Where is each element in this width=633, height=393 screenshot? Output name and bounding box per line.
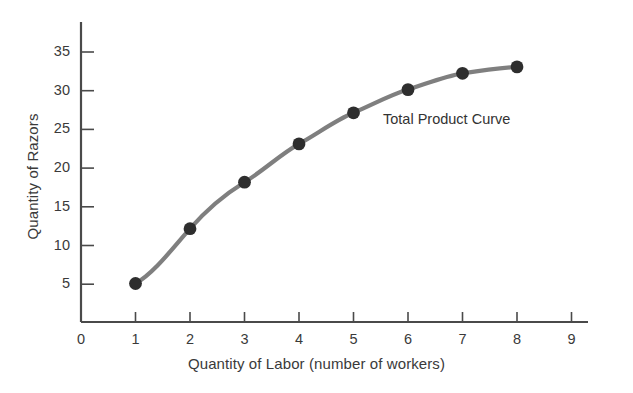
x-tick-label-5: 5 [339, 331, 369, 347]
y-tick-label-35: 35 [36, 43, 70, 59]
data-point-7 [456, 67, 469, 80]
data-point-3 [238, 176, 251, 189]
x-axis-title: Quantity of Labor (number of workers) [0, 355, 633, 372]
y-tick-label-15: 15 [36, 198, 70, 214]
x-tick-label-3: 3 [230, 331, 260, 347]
data-point-4 [293, 138, 306, 151]
data-point-6 [402, 83, 415, 96]
x-tick-label-9: 9 [557, 331, 587, 347]
x-tick-label-8: 8 [502, 331, 532, 347]
x-tick-label-2: 2 [175, 331, 205, 347]
chart-figure: 35 30 25 20 15 10 5 0 1 2 3 4 5 6 7 8 9 … [0, 0, 633, 393]
y-tick-label-10: 10 [36, 237, 70, 253]
data-line-total-product-curve [136, 67, 518, 284]
y-tick-label-20: 20 [36, 159, 70, 175]
data-point-1 [129, 277, 142, 290]
x-axis-ticks [136, 312, 572, 322]
x-tick-label-0: 0 [66, 331, 96, 347]
data-point-markers [129, 61, 523, 290]
y-axis-ticks [81, 52, 94, 284]
x-tick-label-6: 6 [393, 331, 423, 347]
x-tick-label-4: 4 [284, 331, 314, 347]
x-tick-label-7: 7 [448, 331, 478, 347]
data-point-8 [511, 61, 524, 74]
y-axis-title: Quantity of Razors [24, 77, 41, 277]
series-annotation-label: Total Product Curve [383, 111, 510, 127]
data-point-2 [184, 222, 197, 235]
y-tick-label-5: 5 [36, 275, 70, 291]
data-point-5 [347, 106, 360, 119]
y-tick-label-25: 25 [36, 120, 70, 136]
y-tick-label-30: 30 [36, 82, 70, 98]
x-tick-label-1: 1 [121, 331, 151, 347]
